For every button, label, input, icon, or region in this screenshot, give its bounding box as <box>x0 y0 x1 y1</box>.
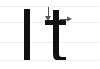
arrow-right-icon <box>60 17 72 22</box>
annotation-vector-group <box>0 0 100 69</box>
annotation-layer <box>0 0 100 69</box>
arrow-down-icon <box>45 7 51 21</box>
glyph-metrics-canvas <box>0 0 100 69</box>
